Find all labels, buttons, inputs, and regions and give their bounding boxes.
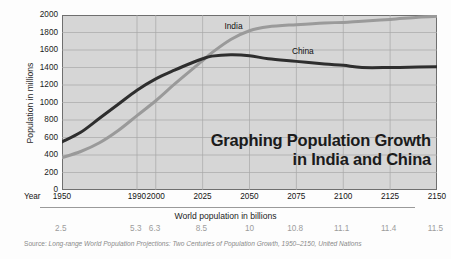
x-tick-label: 2150 xyxy=(428,192,446,202)
chart-title-line-2: in India and China xyxy=(203,150,431,169)
y-axis-ticks: 0200400600800100012001400160018002000 xyxy=(22,15,58,190)
chart-title-line-1: Graphing Population Growth xyxy=(203,131,431,150)
chart-overlay-title: Graphing Population Growth in India and … xyxy=(203,131,431,169)
secondary-axis-title: World population in billions xyxy=(0,211,451,221)
x-tick-label: 1990 xyxy=(128,192,146,202)
y-tick-label: 200 xyxy=(24,169,58,177)
source-lead: Source: xyxy=(24,240,49,247)
x-tick-label: 2100 xyxy=(334,192,352,202)
world-population-tick-label: 11.4 xyxy=(381,224,396,234)
x-tick-label: 2050 xyxy=(240,192,258,202)
series-label-india: India xyxy=(224,21,242,31)
y-tick-label: 1800 xyxy=(24,29,58,37)
world-population-tick-label: 10 xyxy=(245,224,254,234)
y-tick-label: 1600 xyxy=(24,46,58,54)
y-tick-label: 2000 xyxy=(24,11,58,19)
world-population-tick-label: 8.5 xyxy=(196,224,207,234)
world-population-tick-label: 11.5 xyxy=(428,224,443,234)
x-tick-label: 2125 xyxy=(381,192,399,202)
source-note: Source: Long-range World Population Proj… xyxy=(24,240,444,247)
x-tick-label: 2075 xyxy=(287,192,305,202)
source-text: Long-range World Population Projections:… xyxy=(49,240,362,247)
series-label-china: China xyxy=(292,46,314,56)
world-population-tick-label: 2.5 xyxy=(55,224,66,234)
world-population-tick-label: 11.1 xyxy=(334,224,349,234)
y-tick-label: 400 xyxy=(24,151,58,159)
world-population-tick-label: 5.3 xyxy=(130,224,141,234)
y-tick-label: 600 xyxy=(24,134,58,142)
axis-divider xyxy=(40,207,415,208)
plot-area: ChinaIndia Graphing Population Growth in… xyxy=(62,15,437,190)
secondary-axis-ticks: 2.55.36.38.51010.811.111.411.5 xyxy=(0,224,451,236)
y-tick-label: 1400 xyxy=(24,64,58,72)
x-tick-label: 1950 xyxy=(53,192,71,202)
y-tick-label: 800 xyxy=(24,116,58,124)
x-axis-ticks: 195019902000202520502075210021252150 xyxy=(0,192,451,204)
x-tick-label: 2025 xyxy=(193,192,211,202)
world-population-tick-label: 6.3 xyxy=(149,224,160,234)
y-tick-label: 1000 xyxy=(24,99,58,107)
population-chart-figure: Population in millions 02004006008001000… xyxy=(0,0,451,259)
world-population-tick-label: 10.8 xyxy=(287,224,303,234)
x-tick-label: 2000 xyxy=(147,192,165,202)
y-tick-label: 1200 xyxy=(24,81,58,89)
